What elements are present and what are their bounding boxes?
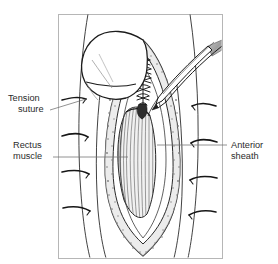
illustration-figure: Tension suture Rectus muscle Anterior sh… [0, 0, 278, 264]
skin-flap [82, 31, 148, 100]
label-rectus-muscle-line2: muscle [13, 151, 42, 161]
label-anterior-sheath: Anterior sheath [231, 140, 263, 161]
label-rectus-muscle: Rectus muscle [13, 140, 42, 161]
label-rectus-muscle-line1: Rectus [13, 140, 42, 150]
label-anterior-sheath-line2: sheath [231, 151, 259, 161]
label-tension-suture-line1: Tension [8, 93, 40, 103]
anatomical-diagram: Tension suture Rectus muscle Anterior sh… [0, 0, 278, 264]
label-anterior-sheath-line1: Anterior [231, 140, 263, 150]
label-tension-suture-line2: suture [18, 104, 44, 114]
